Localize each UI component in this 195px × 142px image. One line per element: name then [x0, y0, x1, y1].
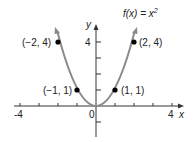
function-label: f(x) = x2	[123, 7, 158, 19]
chart: (−2, 4) (−1, 1) (1, 1) (2, 4) -4 0 4 4 x…	[0, 0, 195, 142]
point-label: (−1, 1)	[43, 85, 72, 96]
x-axis-label: x	[178, 109, 185, 120]
point-2-4	[131, 39, 136, 44]
y-axis-label: y	[85, 19, 92, 30]
y-ticks	[96, 42, 101, 122]
curve-arrow-right-icon	[132, 27, 138, 34]
point-1-1	[112, 87, 117, 92]
point-neg2-4	[55, 39, 60, 44]
x-tick-label: -4	[14, 109, 23, 120]
point-label: (2, 4)	[139, 37, 162, 48]
point-neg1-1	[74, 87, 79, 92]
x-tick-label: 0	[89, 109, 95, 120]
y-tick-label: 4	[85, 37, 91, 48]
y-axis-arrow-icon	[94, 24, 99, 30]
curve-arrow-left-icon	[55, 27, 61, 34]
point-label: (1, 1)	[121, 85, 144, 96]
x-tick-label: 4	[168, 109, 174, 120]
x-axis-arrow-icon	[178, 104, 184, 109]
point-label: (−2, 4)	[22, 37, 51, 48]
